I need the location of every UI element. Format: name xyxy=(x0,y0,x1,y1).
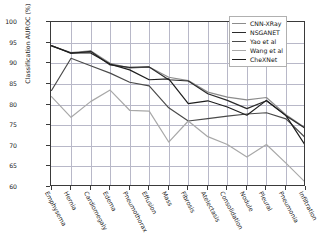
legend-line-swatch xyxy=(232,32,246,33)
x-tick-mark xyxy=(129,186,130,190)
x-tick-label: Fibrosis xyxy=(180,190,197,214)
y-tick-label: 65 xyxy=(0,162,17,169)
y-tick-label: 70 xyxy=(0,141,17,148)
x-tick-mark xyxy=(70,186,71,190)
y-axis-label: Classification AUROC (%) xyxy=(24,0,31,119)
y-tick-label: 90 xyxy=(0,59,17,66)
x-tick-mark xyxy=(168,186,169,190)
y-tick-label: 60 xyxy=(0,183,17,190)
y-tick-label: 85 xyxy=(0,79,17,86)
x-tick-mark xyxy=(305,186,306,190)
legend-label: Wang et al xyxy=(250,46,283,55)
legend-label: NSGANET xyxy=(250,28,280,37)
y-tick-label: 100 xyxy=(0,18,17,25)
legend-line-swatch xyxy=(232,23,246,24)
legend-label: Yao et al xyxy=(250,37,276,46)
x-tick-label: Nodule xyxy=(239,190,255,213)
x-tick-mark xyxy=(246,186,247,190)
x-tick-label: Edema xyxy=(102,190,118,212)
x-tick-label: Hernia xyxy=(63,190,79,211)
x-tick-label: Atelectasis xyxy=(200,190,222,223)
x-tick-mark xyxy=(187,186,188,190)
legend-item[interactable]: CheXNet xyxy=(232,55,283,64)
legend-label: CNN-XRay xyxy=(250,19,281,28)
x-tick-mark xyxy=(148,186,149,190)
x-tick-mark xyxy=(51,186,52,190)
legend[interactable]: CNN-XRayNSGANETYao et alWang et alCheXNe… xyxy=(229,16,287,67)
x-tick-mark xyxy=(109,186,110,190)
series-line xyxy=(52,90,306,182)
x-tick-mark xyxy=(265,186,266,190)
x-tick-mark xyxy=(226,186,227,190)
x-tick-mark xyxy=(207,186,208,190)
x-tick-label: Pleural xyxy=(258,190,274,212)
y-tick-mark xyxy=(46,186,50,187)
legend-item[interactable]: NSGANET xyxy=(232,28,283,37)
y-tick-label: 95 xyxy=(0,38,17,45)
legend-line-swatch xyxy=(232,59,246,60)
x-tick-label: Mass xyxy=(161,190,174,207)
legend-line-swatch xyxy=(232,50,246,51)
legend-item[interactable]: Wang et al xyxy=(232,46,283,55)
x-tick-label: Pneumonia xyxy=(278,190,300,224)
y-tick-label: 75 xyxy=(0,121,17,128)
legend-line-swatch xyxy=(232,41,246,42)
legend-item[interactable]: Yao et al xyxy=(232,37,283,46)
chart-container: Classification AUROC (%) 606570758085909… xyxy=(0,0,325,249)
x-tick-label: Infiltration xyxy=(297,190,318,222)
legend-item[interactable]: CNN-XRay xyxy=(232,19,283,28)
x-tick-mark xyxy=(285,186,286,190)
legend-label: CheXNet xyxy=(250,55,277,64)
y-tick-label: 80 xyxy=(0,100,17,107)
x-tick-mark xyxy=(90,186,91,190)
x-tick-label: Effusion xyxy=(141,190,159,215)
